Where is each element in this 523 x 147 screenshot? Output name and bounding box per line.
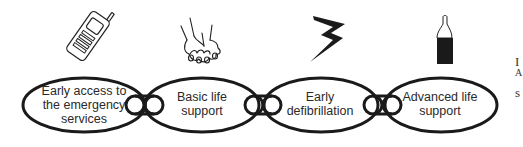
label-basic-life-support: Basic life support: [177, 90, 227, 118]
label-early-access: Early access to the emergency services: [42, 84, 127, 126]
label-line: the emergency: [42, 98, 127, 112]
label-line: Early access to: [42, 84, 127, 98]
lightning-bolt-icon: [310, 16, 345, 62]
label-line: support: [177, 104, 227, 118]
label-line: support: [402, 104, 477, 118]
label-line: Advanced life: [402, 90, 477, 104]
label-line: services: [42, 112, 127, 126]
chain-connector-3: [364, 96, 401, 114]
chain-connector-2: [245, 96, 281, 114]
label-early-defibrillation: Early defibrillation: [287, 90, 354, 118]
label-line: Early: [287, 90, 354, 104]
label-line: Basic life: [177, 90, 227, 104]
label-line: defibrillation: [287, 104, 354, 118]
cropped-caption-text-3: s: [515, 86, 520, 99]
clasped-hands-icon: [181, 18, 220, 63]
label-advanced-life-support: Advanced life support: [402, 90, 477, 118]
medicine-vial-icon: [437, 16, 453, 65]
cropped-caption-text-2: A: [515, 66, 522, 79]
mobile-phone-icon: [65, 3, 116, 62]
